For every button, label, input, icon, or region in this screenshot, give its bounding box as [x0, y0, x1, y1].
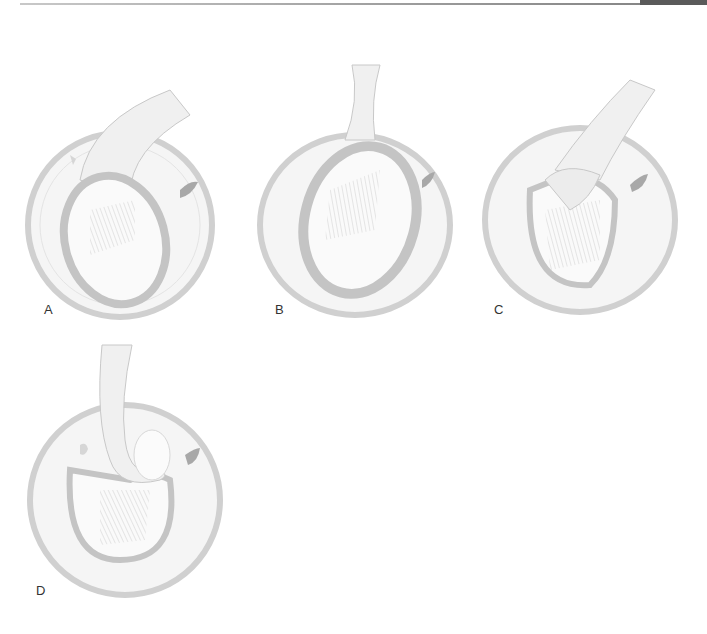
- panel-d: D: [20, 340, 240, 620]
- panel-b: B: [250, 60, 470, 320]
- panel-c-illustration: [470, 60, 700, 320]
- panel-b-illustration: [250, 60, 470, 320]
- panel-c: C: [470, 60, 700, 320]
- panel-label-b: B: [275, 303, 284, 316]
- panel-d-illustration: [20, 340, 240, 620]
- panel-label-c: C: [494, 303, 503, 316]
- panel-a-illustration: [20, 60, 240, 320]
- header-tab: [640, 0, 707, 5]
- panel-label-a: A: [44, 303, 53, 316]
- panel-a: A: [20, 60, 240, 320]
- header-rule: [20, 3, 707, 5]
- panel-label-d: D: [36, 584, 45, 597]
